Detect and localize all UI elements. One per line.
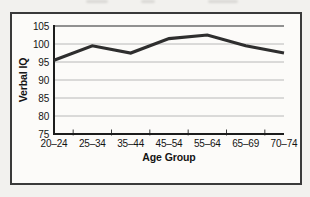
x-tick-20–24: 20–24 xyxy=(41,138,68,149)
y-tick-90: 90 xyxy=(38,75,49,86)
y-tick-95: 95 xyxy=(38,57,49,68)
x-tick-45–54: 45–54 xyxy=(156,138,183,149)
x-tick-35–44: 35–44 xyxy=(117,138,144,149)
cropped-text-artifact xyxy=(141,0,155,3)
y-axis-tick-labels: 7580859095100105 xyxy=(33,21,50,140)
chart-frame: 7580859095100105 20–2425–3435–4445–5455–… xyxy=(10,12,302,185)
y-tick-85: 85 xyxy=(38,93,49,104)
cropped-text-artifact xyxy=(208,0,238,3)
x-tick-70–74: 70–74 xyxy=(271,138,298,149)
y-tick-105: 105 xyxy=(33,21,50,32)
x-axis-title: Age Group xyxy=(142,151,195,163)
scanned-figure: 7580859095100105 20–2425–3435–4445–5455–… xyxy=(0,0,310,197)
y-tick-80: 80 xyxy=(38,111,49,122)
y-tick-100: 100 xyxy=(33,39,50,50)
cropped-text-artifact xyxy=(86,0,108,3)
x-tick-55–64: 55–64 xyxy=(194,138,221,149)
x-tick-65–69: 65–69 xyxy=(232,138,259,149)
x-axis-tick-labels: 20–2425–3435–4445–5455–6465–6970–74 xyxy=(41,138,298,149)
x-tick-25–34: 25–34 xyxy=(79,138,106,149)
data-line-verbal-iq xyxy=(54,35,284,60)
y-axis-title: Verbal IQ xyxy=(17,58,29,103)
iq-line-chart: 7580859095100105 20–2425–3435–4445–5455–… xyxy=(12,14,300,183)
